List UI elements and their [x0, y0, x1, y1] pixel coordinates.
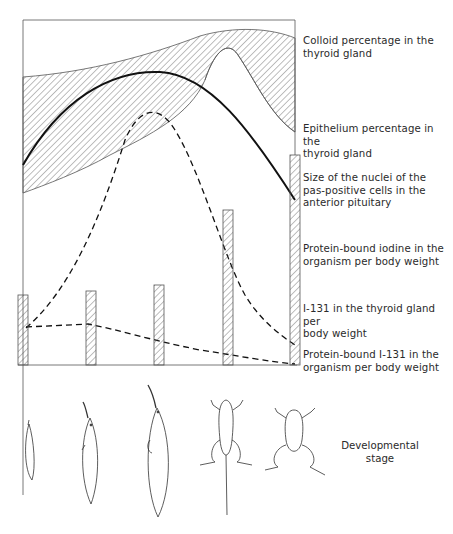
legend-i131-thyroid: I-131 in the thyroid gland per body weig…	[303, 303, 453, 341]
legend-nuclei-line1: Size of the nuclei of the	[303, 172, 426, 185]
legend-nuclei-line3: anterior pituitary	[303, 197, 426, 210]
stage-1-tadpole-icon	[26, 420, 35, 480]
stage-3-tadpole-hindlimbs-icon	[148, 385, 169, 517]
legend-pbi-line2: organism per body weight	[303, 256, 444, 269]
legend-pbi: Protein-bound iodine in the organism per…	[303, 243, 444, 268]
stage-5-young-frog-icon	[265, 408, 325, 475]
legend-nuclei-line2: pas-positive cells in the	[303, 185, 426, 198]
legend-epithelium: Epithelium percentage in the thyroid gla…	[303, 123, 453, 161]
legend-colloid-line2: thyroid gland	[303, 48, 434, 61]
legend-pb-i131: Protein-bound I-131 in the organism per …	[303, 349, 439, 374]
legend-colloid: Colloid percentage in the thyroid gland	[303, 35, 434, 60]
legend-i131-line2: body weight	[303, 328, 453, 341]
legend-i131-line1: I-131 in the thyroid gland per	[303, 303, 453, 328]
legend-pbi-line1: Protein-bound iodine in the	[303, 243, 444, 256]
pbi-bars	[18, 155, 300, 365]
legend-epithelium-line2: thyroid gland	[303, 148, 453, 161]
x-axis-label-line1: Developmental	[330, 440, 430, 453]
x-axis-label: Developmental stage	[330, 440, 430, 465]
legend-colloid-line1: Colloid percentage in the	[303, 35, 434, 48]
legend-pb-i131-line1: Protein-bound I-131 in the	[303, 349, 439, 362]
x-axis-label-line2: stage	[330, 453, 430, 466]
legend-epithelium-line1: Epithelium percentage in the	[303, 123, 453, 148]
legend-pb-i131-line2: organism per body weight	[303, 362, 439, 375]
stage-2-tadpole-icon	[82, 402, 98, 504]
legend-nuclei: Size of the nuclei of the pas-positive c…	[303, 172, 426, 210]
stage-4-froglet-with-tail-icon	[200, 400, 252, 515]
